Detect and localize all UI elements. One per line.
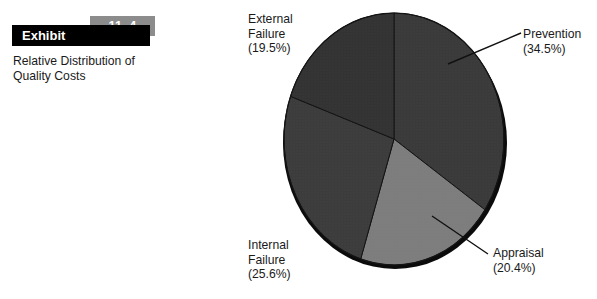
pie-label-internal-failure: Internal Failure (25.6%): [248, 238, 338, 282]
pie-label-prevention: Prevention (34.5%): [523, 27, 597, 56]
pie-label-external-failure: External Failure (19.5%): [248, 12, 338, 56]
exhibit-label: Exhibit: [22, 25, 65, 46]
exhibit-banner: 11–4 Exhibit: [12, 16, 187, 46]
exhibit-label-bar: Exhibit: [12, 25, 150, 46]
pie-chart-figure: External Failure (19.5%) Prevention (34.…: [230, 0, 597, 299]
exhibit-caption-block: 11–4 Exhibit Relative Distribution of Qu…: [12, 16, 187, 46]
exhibit-title: Relative Distribution of Quality Costs: [13, 54, 188, 83]
pie-label-appraisal: Appraisal (20.4%): [493, 246, 583, 275]
